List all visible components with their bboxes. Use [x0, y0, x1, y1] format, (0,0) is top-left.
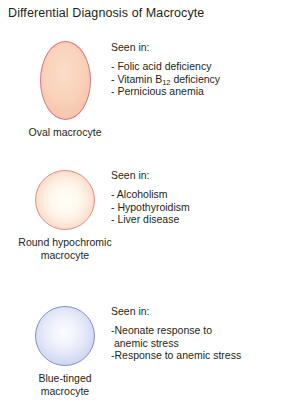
round-hypochromic-macrocyte-cell-illustration: [35, 170, 95, 230]
cell-art-column: Round hypochromic macrocyte: [8, 166, 122, 261]
caption-line: Round hypochromic: [8, 236, 122, 249]
finding-subscript: 12: [162, 78, 170, 87]
finding-text: Folic acid deficiency: [117, 60, 211, 72]
finding-item: - Folic acid deficiency: [111, 60, 289, 73]
finding-item: - Hypothyroidism: [111, 201, 289, 214]
finding-item: - Pernicious anemia: [111, 85, 289, 98]
finding-text: Pernicious anemia: [117, 85, 203, 97]
findings-column: Seen in: - Folic acid deficiency - Vitam…: [111, 41, 289, 98]
round-hypochromic-macrocyte-caption: Round hypochromic macrocyte: [8, 236, 122, 261]
caption-line: Blue-tinged: [8, 372, 122, 385]
finding-item: - Alcoholism: [111, 188, 289, 201]
caption-line: macrocyte: [8, 385, 122, 398]
findings-list: - Alcoholism - Hypothyroidism - Liver di…: [111, 188, 289, 226]
oval-macrocyte-caption: Oval macrocyte: [8, 126, 122, 139]
finding-item: -Neonate response to anemic stress: [111, 324, 289, 349]
finding-text-tail: deficiency: [171, 73, 221, 85]
cell-art-column: Blue-tinged macrocyte: [8, 302, 122, 397]
finding-item: - Liver disease: [111, 213, 289, 226]
caption-line: macrocyte: [8, 249, 122, 262]
figure-title: Differential Diagnosis of Macrocyte: [8, 6, 204, 21]
findings-heading: Seen in:: [111, 305, 289, 318]
finding-text: Hypothyroidism: [117, 201, 189, 213]
blue-tinged-macrocyte-cell-illustration: [35, 306, 95, 366]
finding-text: Alcoholism: [117, 188, 168, 200]
finding-text: Liver disease: [117, 213, 179, 225]
blue-tinged-macrocyte-caption: Blue-tinged macrocyte: [8, 372, 122, 397]
findings-column: Seen in: -Neonate response to anemic str…: [111, 305, 289, 362]
cell-art-column: Oval macrocyte: [8, 38, 122, 139]
finding-text: Vitamin B: [117, 73, 162, 85]
findings-heading: Seen in:: [111, 41, 289, 54]
finding-text: Response to anemic stress: [115, 349, 242, 361]
finding-item: -Response to anemic stress: [111, 349, 289, 362]
finding-text: Neonate response to anemic stress: [111, 324, 212, 349]
findings-heading: Seen in:: [111, 169, 289, 182]
findings-list: - Folic acid deficiency - Vitamin B12 de…: [111, 60, 289, 98]
findings-list: -Neonate response to anemic stress -Resp…: [111, 324, 289, 362]
findings-column: Seen in: - Alcoholism - Hypothyroidism -…: [111, 169, 289, 226]
caption-line: Oval macrocyte: [8, 126, 122, 139]
finding-item: - Vitamin B12 deficiency: [111, 73, 289, 86]
oval-macrocyte-cell-illustration: [40, 41, 91, 120]
